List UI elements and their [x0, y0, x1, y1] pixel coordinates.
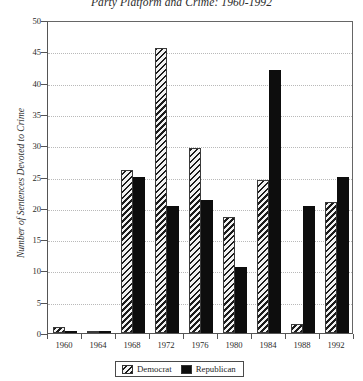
- hatched-swatch-icon: [122, 365, 133, 374]
- x-tick-mark: [81, 334, 82, 339]
- bar-democrat-1980: [223, 217, 235, 333]
- gridline: [48, 116, 352, 117]
- legend-entry-republican: Republican: [181, 364, 236, 374]
- bar-republican-1980: [235, 267, 247, 333]
- x-tick-mark: [285, 334, 286, 339]
- bar-republican-1984: [269, 70, 281, 333]
- x-tick-mark: [115, 334, 116, 339]
- y-tick-label: 20: [1, 204, 41, 214]
- bar-republican-1960: [65, 331, 77, 333]
- x-tick-mark: [251, 334, 252, 339]
- y-tick-label: 0: [1, 329, 41, 339]
- bar-democrat-1976: [189, 148, 201, 333]
- plot-area: [47, 21, 353, 334]
- y-tick-label: 5: [1, 298, 41, 308]
- x-tick-mark: [353, 334, 354, 339]
- chart-title: Party Platform and Crime: 1960-1992: [0, 0, 363, 8]
- bar-democrat-1988: [291, 324, 303, 333]
- x-tick-mark: [319, 334, 320, 339]
- bar-republican-1976: [201, 200, 213, 333]
- y-tick-label: 50: [1, 16, 41, 26]
- y-tick-label: 10: [1, 266, 41, 276]
- y-tick-label: 25: [1, 173, 41, 183]
- y-tick-label: 40: [1, 79, 41, 89]
- x-tick-mark: [47, 334, 48, 339]
- x-tick-mark: [149, 334, 150, 339]
- bar-democrat-1968: [121, 170, 133, 333]
- bar-democrat-1992: [325, 202, 337, 333]
- legend-entry-democrat: Democrat: [122, 364, 172, 374]
- bar-republican-1988: [303, 206, 315, 333]
- bar-chart: Party Platform and Crime: 1960-1992 Numb…: [0, 0, 363, 381]
- bar-republican-1972: [167, 206, 179, 333]
- solid-black-swatch-icon: [181, 365, 192, 374]
- gridline: [48, 85, 352, 86]
- gridline: [48, 53, 352, 54]
- y-tick-label: 45: [1, 47, 41, 57]
- legend-label-republican: Republican: [196, 364, 236, 374]
- bar-republican-1968: [133, 177, 145, 334]
- bar-democrat-1972: [155, 48, 167, 333]
- bar-democrat-1964: [87, 331, 99, 333]
- chart-legend: Democrat Republican: [115, 361, 244, 377]
- bar-democrat-1984: [257, 180, 269, 333]
- legend-label-democrat: Democrat: [137, 364, 172, 374]
- x-tick-mark: [183, 334, 184, 339]
- y-tick-label: 15: [1, 235, 41, 245]
- x-tick-label: 1992: [313, 340, 359, 350]
- bar-republican-1992: [337, 177, 349, 334]
- y-tick-label: 35: [1, 110, 41, 120]
- bar-republican-1964: [99, 331, 111, 333]
- x-tick-mark: [217, 334, 218, 339]
- y-tick-label: 30: [1, 141, 41, 151]
- bar-democrat-1960: [53, 327, 65, 333]
